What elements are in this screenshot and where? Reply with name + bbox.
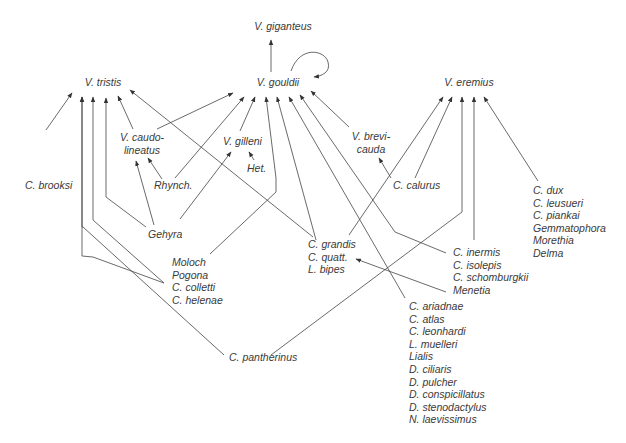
node-v-giganteus: V. giganteus xyxy=(246,20,320,33)
node-gehyra: Gehyra xyxy=(148,228,182,241)
node-v-gilleni: V. gilleni xyxy=(223,135,262,148)
node-label: C. brooksi xyxy=(25,179,72,192)
node-label: D. stenodactylus xyxy=(409,401,487,414)
node-v-brevicauda: V. brevi- cauda xyxy=(343,130,399,155)
node-label: C. grandis xyxy=(308,238,356,251)
node-label: C. leonhardi xyxy=(409,325,487,338)
node-label: N. laevissimus xyxy=(409,413,487,426)
node-v-eremius: V. eremius xyxy=(436,76,502,89)
node-label: V. gouldii xyxy=(246,76,310,89)
node-grandis-group: C. grandis C. quatt. L. bipes xyxy=(308,238,356,276)
edge-rhynch-to-v-caudolineatus xyxy=(148,158,162,179)
edge-moloch-group-to-v-tristis xyxy=(82,97,164,283)
edge-c-calurus-to-v-eremius xyxy=(415,97,452,178)
node-label: lineatus xyxy=(112,144,172,157)
node-label: Delma xyxy=(533,247,606,260)
node-v-tristis: V. tristis xyxy=(76,76,130,89)
food-web-diagram: V. giganteus V. gouldii V. tristis V. er… xyxy=(0,0,626,443)
edge-v-gouldii-to-v-gouldii xyxy=(291,52,329,77)
node-label: C. calurus xyxy=(393,179,440,192)
node-label: C. schomburgkii xyxy=(453,271,528,284)
node-label: Gemmatophora xyxy=(533,222,606,235)
edge-grandis-group-to-v-tristis xyxy=(130,90,313,237)
node-label: C. atlas xyxy=(409,313,487,326)
node-label: cauda xyxy=(343,143,399,156)
node-c-brooksi: C. brooksi xyxy=(25,179,72,192)
node-label: Moloch xyxy=(172,256,223,269)
node-label: Rhynch. xyxy=(154,179,193,192)
node-rhynch: Rhynch. xyxy=(154,179,193,192)
edge-het-to-v-gilleni xyxy=(249,152,254,160)
node-label: C. colletti xyxy=(172,281,223,294)
node-label: L. muelleri xyxy=(409,338,487,351)
node-label: D. ciliaris xyxy=(409,363,487,376)
node-c-pantherinus: C. pantherinus xyxy=(229,351,297,364)
node-label: V. tristis xyxy=(76,76,130,89)
node-label: Morethia xyxy=(533,234,606,247)
node-label: C. isolepis xyxy=(453,259,528,272)
edge-gehyra-to-v-tristis xyxy=(106,98,146,227)
edge-c-calurus-to-v-brevicauda xyxy=(379,158,391,178)
edge-v-caudolineatus-to-v-tristis xyxy=(118,96,133,129)
edge-moloch-group-to-v-gouldii xyxy=(210,97,276,254)
node-label: Gehyra xyxy=(148,228,182,241)
node-het: Het. xyxy=(247,162,266,175)
node-label: Menetia xyxy=(453,284,528,297)
edge-grandis-group-to-v-eremius xyxy=(349,97,443,235)
node-c-calurus: C. calurus xyxy=(393,179,440,192)
edge-gehyra-to-v-caudolineatus xyxy=(136,161,154,225)
node-label: Lialis xyxy=(409,350,487,363)
node-label: C. inermis xyxy=(453,246,528,259)
edge-inermis-group-to-grandis-group xyxy=(356,259,446,292)
node-label: V. giganteus xyxy=(246,20,320,33)
node-label: L. bipes xyxy=(308,263,356,276)
node-v-caudolineatus: V. caudo- lineatus xyxy=(112,131,172,156)
node-label: Pogona xyxy=(172,269,223,282)
node-v-gouldii: V. gouldii xyxy=(246,76,310,89)
node-moloch-group: Moloch Pogona C. colletti C. helenae xyxy=(172,256,223,306)
node-label: C. leusueri xyxy=(533,197,606,210)
node-label: V. eremius xyxy=(436,76,502,89)
node-label: V. brevi- xyxy=(343,130,399,143)
node-label: D. conspicillatus xyxy=(409,388,487,401)
node-label: C. pantherinus xyxy=(229,351,297,364)
node-label: C. helenae xyxy=(172,294,223,307)
node-label: Het. xyxy=(247,162,266,175)
node-label: V. gilleni xyxy=(223,135,262,148)
edge-grandis-group-to-v-gouldii xyxy=(277,97,316,240)
edge-dux-group-to-v-eremius xyxy=(484,97,538,181)
edge-c-brooksi-to-v-tristis xyxy=(46,93,72,130)
node-label: C. piankai xyxy=(533,209,606,222)
edge-v-brevicauda-to-v-gouldii xyxy=(311,91,349,127)
node-label: C. quatt. xyxy=(308,251,356,264)
edge-inermis-group-to-v-gouldii xyxy=(300,95,446,253)
node-label: V. caudo- xyxy=(112,131,172,144)
node-label: C. ariadnae xyxy=(409,300,487,313)
node-label: D. pulcher xyxy=(409,376,487,389)
node-dux-group: C. dux C. leusueri C. piankai Gemmatopho… xyxy=(533,184,606,260)
edge-v-gilleni-to-v-gouldii xyxy=(240,97,255,131)
node-label: C. dux xyxy=(533,184,606,197)
node-inermis-group: C. inermis C. isolepis C. schomburgkii M… xyxy=(453,246,528,296)
node-ariadnae-group: C. ariadnae C. atlas C. leonhardi L. mue… xyxy=(409,300,487,426)
